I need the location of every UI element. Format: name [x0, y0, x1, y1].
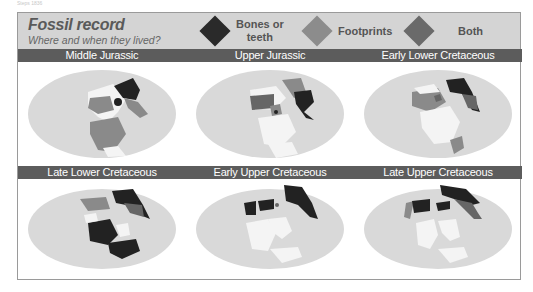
legend-label: Bones or — [236, 18, 284, 31]
panel-title: Upper Jurassic — [186, 49, 354, 62]
both-diamond-icon — [403, 15, 434, 46]
legend-item-footprints: Footprints — [300, 15, 392, 47]
fossil-record-infographic: Fossil record Where and when they lived?… — [17, 12, 521, 280]
panel-title: Early Lower Cretaceous — [354, 49, 522, 62]
footprints-diamond-icon — [301, 15, 332, 46]
subtitle: Where and when they lived? — [28, 34, 161, 46]
panel-late-lower-cretaceous: Late Lower Cretaceous — [18, 166, 186, 283]
legend-item-bones: Bones or teeth — [198, 15, 284, 47]
panel-title: Middle Jurassic — [18, 49, 186, 62]
legend-label: Both — [458, 25, 483, 38]
world-map — [186, 62, 354, 166]
panel-early-lower-cretaceous: Early Lower Cretaceous — [354, 49, 522, 166]
legend-label: teeth — [236, 31, 284, 44]
bones-diamond-icon — [199, 15, 230, 46]
caption: Steps 1836 — [17, 0, 42, 6]
panel-early-upper-cretaceous: Early Upper Cretaceous — [186, 166, 354, 283]
legend-label: Footprints — [338, 25, 392, 38]
title: Fossil record — [28, 16, 125, 34]
legend-item-both: Both — [402, 15, 483, 47]
world-map — [354, 62, 522, 166]
panel-title: Early Upper Cretaceous — [186, 166, 354, 179]
panel-upper-jurassic: Upper Jurassic — [186, 49, 354, 166]
world-map — [186, 179, 354, 283]
panel-title: Late Upper Cretaceous — [354, 166, 522, 179]
panel-title: Late Lower Cretaceous — [18, 166, 186, 179]
world-map — [18, 62, 186, 166]
panel-middle-jurassic: Middle Jurassic — [18, 49, 186, 166]
world-map — [18, 179, 186, 283]
world-map — [354, 179, 522, 283]
header: Fossil record Where and when they lived?… — [18, 13, 520, 49]
panel-late-upper-cretaceous: Late Upper Cretaceous — [354, 166, 522, 283]
